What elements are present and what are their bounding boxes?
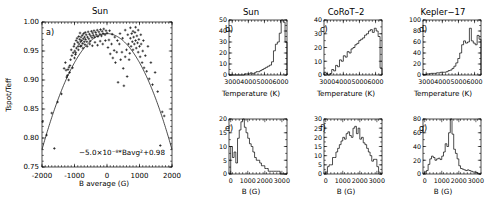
scatter-point: [69, 58, 72, 61]
scatter-point: [93, 29, 96, 32]
panel-g-svg: g) B (G) 0100020003000020406080: [386, 101, 487, 202]
panel-a-svg: Sun a) −5.0×10⁻⁸*Bavg²+0.98 B average (G…: [0, 0, 196, 202]
scatter-point: [114, 36, 117, 39]
panel-f-xlabel: B (G): [337, 187, 356, 196]
panel-d-body: 3000400050006000020406080100: [409, 16, 483, 85]
svg-text:15: 15: [219, 129, 227, 136]
svg-text:30: 30: [219, 38, 227, 45]
svg-text:10: 10: [219, 60, 227, 67]
scatter-point: [70, 49, 73, 52]
scatter-point: [73, 45, 76, 48]
svg-text:1.00: 1.00: [23, 18, 39, 26]
svg-text:-2000: -2000: [32, 172, 52, 180]
scatter-point: [156, 90, 159, 93]
svg-text:30: 30: [314, 30, 322, 37]
scatter-point: [150, 61, 153, 64]
scatter-point: [140, 33, 143, 36]
svg-text:0: 0: [324, 177, 328, 184]
scatter-point: [121, 51, 124, 54]
scatter-point: [81, 42, 84, 45]
scatter-point: [94, 31, 97, 34]
histogram-outline: [326, 126, 382, 174]
scatter-point: [129, 27, 132, 30]
scatter-point: [98, 31, 101, 34]
scatter-point: [131, 40, 134, 43]
scatter-point: [81, 34, 84, 37]
svg-text:40: 40: [219, 27, 227, 34]
scatter-point: [65, 69, 68, 72]
svg-text:0: 0: [417, 170, 421, 177]
scatter-point: [102, 28, 105, 31]
scatter-point: [76, 37, 79, 40]
scatter-point: [108, 39, 111, 42]
svg-text:10: 10: [314, 152, 322, 159]
svg-text:0.75: 0.75: [23, 163, 39, 171]
scatter-point: [63, 67, 66, 70]
histogram-outline: [229, 20, 287, 75]
scatter-point: [105, 29, 108, 32]
scatter-point: [136, 35, 139, 38]
panel-c-svg: CoRoT–2 c) Temperature (K) 3000400050006…: [291, 0, 388, 101]
scatter-point: [84, 38, 87, 41]
histogram-outline: [324, 28, 382, 75]
svg-text:3000: 3000: [274, 177, 290, 184]
panel-b-svg: Sun b) Temperature (K) 30004000500060000…: [196, 0, 293, 101]
svg-text:4000: 4000: [335, 78, 351, 85]
scatter-point: [87, 31, 90, 34]
svg-text:20: 20: [413, 157, 421, 164]
svg-text:100: 100: [409, 16, 421, 23]
panel-e-svg: e) B (G) 010002000300005101520: [196, 101, 293, 202]
scatter-point: [53, 147, 56, 150]
panel-a-scatter: Sun a) −5.0×10⁻⁸*Bavg²+0.98 B average (G…: [0, 0, 196, 202]
svg-text:0.90: 0.90: [23, 76, 39, 84]
panel-a-annotation: −5.0×10⁻⁸*Bavg²+0.98: [79, 148, 165, 157]
svg-text:5000: 5000: [450, 78, 466, 85]
scatter-point: [119, 32, 122, 35]
svg-text:1000: 1000: [240, 177, 256, 184]
scatter-point: [71, 67, 74, 70]
scatter-point: [107, 46, 110, 49]
svg-text:5000: 5000: [351, 78, 367, 85]
scatter-point: [111, 33, 114, 36]
svg-text:5: 5: [223, 157, 227, 164]
scatter-point: [132, 36, 135, 39]
panel-b-xlabel: Temperature (K): [221, 89, 280, 98]
scatter-point: [88, 33, 91, 36]
svg-text:0: 0: [417, 71, 421, 78]
scatter-point: [83, 40, 86, 43]
svg-text:1000: 1000: [434, 177, 450, 184]
svg-text:6000: 6000: [368, 78, 384, 85]
scatter-point: [95, 33, 98, 36]
panel-f-svg: f) B (G) 0100020003000051015202530: [291, 101, 388, 202]
panel-c-histogram: CoRoT–2 c) Temperature (K) 3000400050006…: [291, 0, 388, 101]
svg-text:3000: 3000: [319, 78, 335, 85]
svg-text:0: 0: [318, 170, 322, 177]
panel-e-xlabel: B (G): [242, 187, 261, 196]
panel-a-ylabel: Tspot/Teff: [4, 77, 13, 113]
histogram-outline: [423, 28, 481, 75]
scatter-point: [90, 30, 93, 33]
panel-g-xlabel: B (G): [434, 187, 453, 196]
svg-text:0: 0: [229, 177, 233, 184]
svg-text:3000: 3000: [418, 78, 434, 85]
scatter-point: [137, 29, 140, 32]
svg-text:0: 0: [223, 170, 227, 177]
panel-a-label: a): [46, 28, 54, 37]
scatter-point: [129, 37, 132, 40]
scatter-point: [85, 33, 88, 36]
scatter-point: [92, 34, 95, 37]
panel-d-histogram: Kepler−17 d) Temperature (K) 30004000500…: [386, 0, 487, 101]
scatter-point: [77, 35, 80, 38]
scatter-point: [99, 40, 102, 43]
panel-c-body: 3000400050006000010203040: [314, 16, 384, 85]
svg-text:20: 20: [314, 44, 322, 51]
scatter-point: [73, 57, 76, 60]
svg-text:1000: 1000: [131, 172, 149, 180]
scatter-point: [130, 32, 133, 35]
scatter-point: [141, 61, 144, 64]
scatter-point: [101, 30, 104, 33]
scatter-point: [75, 47, 78, 50]
scatter-point: [76, 41, 79, 44]
svg-text:5: 5: [318, 161, 322, 168]
svg-text:4000: 4000: [240, 78, 256, 85]
